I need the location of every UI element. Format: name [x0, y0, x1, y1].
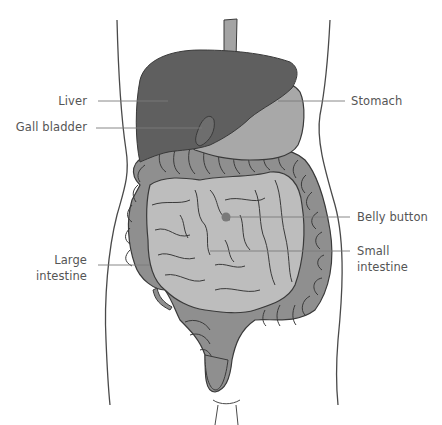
label-small-intestine-line1: Small — [357, 243, 408, 259]
small-intestine — [147, 172, 304, 313]
label-stomach: Stomach — [351, 93, 402, 109]
label-small-intestine: Small intestine — [357, 243, 408, 275]
label-small-intestine-line2: intestine — [357, 259, 408, 275]
label-liver: Liver — [40, 93, 87, 109]
label-large-intestine: Large intestine — [20, 252, 87, 284]
pelvic-line-right — [236, 405, 238, 425]
label-large-intestine-line1: Large — [20, 252, 87, 268]
label-gall-bladder: Gall bladder — [10, 119, 87, 135]
pelvic-arc — [213, 400, 240, 404]
pelvic-line-left — [215, 405, 218, 425]
label-large-intestine-line2: intestine — [20, 268, 87, 284]
label-belly-button: Belly button — [357, 209, 428, 225]
body-outline-left — [105, 20, 127, 405]
